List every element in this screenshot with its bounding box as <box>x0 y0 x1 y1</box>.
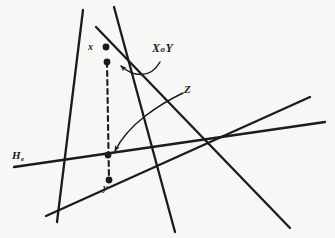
label-hyperplane-he: He <box>12 150 25 163</box>
label-he-base: H <box>12 149 21 161</box>
line-descending-diagonal <box>96 27 290 228</box>
point-upper-interior-dot <box>104 59 111 66</box>
label-set-xoy: XoY <box>152 42 173 54</box>
label-xoy-last: Y <box>166 41 174 55</box>
z-callout-arrow <box>115 93 183 151</box>
point-lower-interior-dot <box>105 152 112 159</box>
figure-canvas: x y Z XoY He <box>0 0 335 238</box>
vertical-dashed-segment <box>107 62 109 180</box>
label-point-x: x <box>88 42 94 52</box>
label-point-y: y <box>103 183 108 193</box>
label-line-z: Z <box>184 84 191 95</box>
diagram-svg <box>0 0 335 238</box>
line-left-cone-edge <box>57 10 83 222</box>
label-he-subscript: e <box>21 155 25 163</box>
label-xoy-first: X <box>152 41 161 55</box>
point-x-dot <box>103 44 110 51</box>
